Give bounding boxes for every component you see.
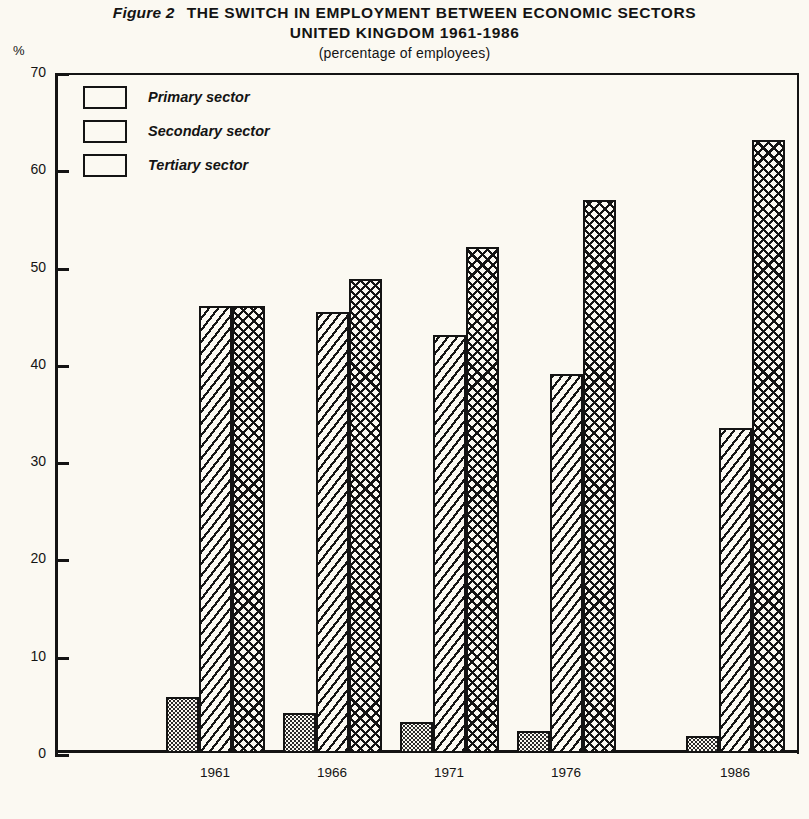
bar-1976-primary[interactable] [517, 731, 550, 753]
chart-page: Figure 2THE SWITCH IN EMPLOYMENT BETWEEN… [0, 0, 809, 819]
y-axis-line [55, 73, 58, 754]
y-tick-label-70: 70 [30, 64, 46, 80]
x-tick-label-1961: 1961 [175, 765, 255, 780]
plot-right-border [797, 73, 799, 754]
y-tick-label-30: 30 [30, 453, 46, 469]
chart-title-line-2: UNITED KINGDOM 1961-1986 [0, 24, 809, 42]
y-tick-label-0: 0 [38, 745, 46, 761]
y-tick-label-50: 50 [30, 259, 46, 275]
bar-1971-tertiary[interactable] [466, 247, 499, 753]
chart-title-main: THE SWITCH IN EMPLOYMENT BETWEEN ECONOMI… [187, 4, 697, 21]
legend-label-secondary: Secondary sector [148, 123, 270, 139]
bar-1971-secondary[interactable] [433, 335, 466, 753]
x-tick-label-1971: 1971 [409, 765, 489, 780]
bar-1966-primary[interactable] [283, 713, 316, 753]
bar-1966-secondary[interactable] [316, 312, 349, 753]
bar-1986-tertiary[interactable] [752, 140, 785, 753]
bar-1961-secondary[interactable] [199, 306, 232, 754]
y-tick-label-20: 20 [30, 550, 46, 566]
legend-swatch-diagonal-hatch-icon [83, 120, 127, 143]
x-tick-label-1966: 1966 [292, 765, 372, 780]
bar-1966-tertiary[interactable] [349, 279, 382, 753]
x-tick-label-1976: 1976 [526, 765, 606, 780]
y-tick-50: 50 [55, 268, 69, 271]
chart-subtitle: (percentage of employees) [0, 45, 809, 61]
y-tick-60: 60 [55, 170, 69, 173]
y-axis-unit-label: % [13, 43, 25, 58]
bar-1961-tertiary[interactable] [232, 306, 265, 754]
legend-swatch-dotted-icon [83, 86, 127, 109]
y-tick-label-10: 10 [30, 648, 46, 664]
legend-item-tertiary[interactable]: Tertiary sector [83, 150, 323, 180]
bar-1971-primary[interactable] [400, 722, 433, 753]
y-tick-70: 70 [55, 73, 69, 76]
chart-legend: Primary sectorSecondary sectorTertiary s… [83, 82, 323, 184]
bar-group-1976 [517, 72, 616, 753]
y-tick-label-60: 60 [30, 161, 46, 177]
bar-group-1971 [400, 72, 499, 753]
bar-1986-primary[interactable] [686, 736, 719, 754]
y-tick-20: 20 [55, 559, 69, 562]
legend-label-tertiary: Tertiary sector [148, 157, 248, 173]
legend-label-primary: Primary sector [148, 89, 250, 105]
bar-1961-primary[interactable] [166, 697, 199, 753]
y-tick-label-40: 40 [30, 356, 46, 372]
chart-title-block: Figure 2THE SWITCH IN EMPLOYMENT BETWEEN… [0, 4, 809, 61]
chart-title-line-1: Figure 2THE SWITCH IN EMPLOYMENT BETWEEN… [0, 4, 809, 22]
y-tick-30: 30 [55, 462, 69, 465]
figure-label: Figure 2 [113, 4, 175, 21]
legend-swatch-cross-hatch-icon [83, 154, 127, 177]
bar-1976-secondary[interactable] [550, 374, 583, 753]
legend-item-primary[interactable]: Primary sector [83, 82, 323, 112]
y-tick-0: 0 [55, 754, 69, 757]
bar-1986-secondary[interactable] [719, 428, 752, 753]
bar-1976-tertiary[interactable] [583, 200, 616, 753]
legend-item-secondary[interactable]: Secondary sector [83, 116, 323, 146]
bar-group-1986 [686, 72, 785, 753]
y-tick-10: 10 [55, 657, 69, 660]
y-tick-40: 40 [55, 365, 69, 368]
x-tick-label-1986: 1986 [695, 765, 775, 780]
